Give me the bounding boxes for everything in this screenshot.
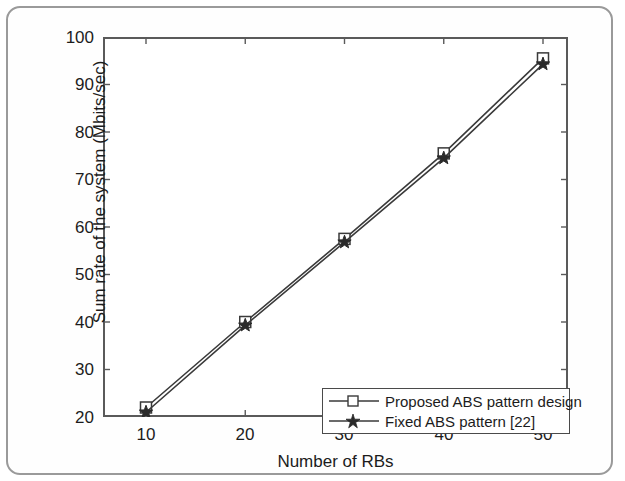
ytick-label-20: 20 (52, 408, 94, 428)
series-proposed (141, 53, 549, 413)
ytick-label-80: 80 (52, 123, 94, 143)
legend-label-proposed: Proposed ABS pattern design (381, 393, 582, 410)
ytick-label-100: 100 (52, 28, 94, 48)
figure-container: 100 90 80 70 60 50 40 30 20 10 20 30 40 … (0, 0, 625, 481)
legend-entry-fixed: Fixed ABS pattern [22] (327, 411, 565, 431)
ytick-label-50: 50 (52, 265, 94, 285)
square-marker-icon (327, 392, 381, 410)
legend-box: Proposed ABS pattern design Fixed ABS pa… (322, 388, 570, 434)
ytick-label-90: 90 (52, 75, 94, 95)
square-marker-sample (327, 392, 381, 410)
plot-canvas (103, 37, 568, 417)
y-axis-title: Sum rate of the system (Mbits/sec) (90, 0, 110, 402)
ytick-label-60: 60 (52, 218, 94, 238)
legend-entry-proposed: Proposed ABS pattern design (327, 391, 565, 411)
ytick-label-40: 40 (52, 313, 94, 333)
x-axis-title: Number of RBs (103, 452, 568, 472)
xtick-label-20: 20 (220, 425, 270, 445)
legend-label-fixed: Fixed ABS pattern [22] (381, 413, 535, 430)
axis-ticks (103, 37, 568, 417)
star-marker-sample (327, 412, 381, 430)
ytick-label-30: 30 (52, 360, 94, 380)
ytick-label-70: 70 (52, 170, 94, 190)
star-marker-icon (327, 412, 381, 430)
xtick-label-10: 10 (121, 425, 171, 445)
